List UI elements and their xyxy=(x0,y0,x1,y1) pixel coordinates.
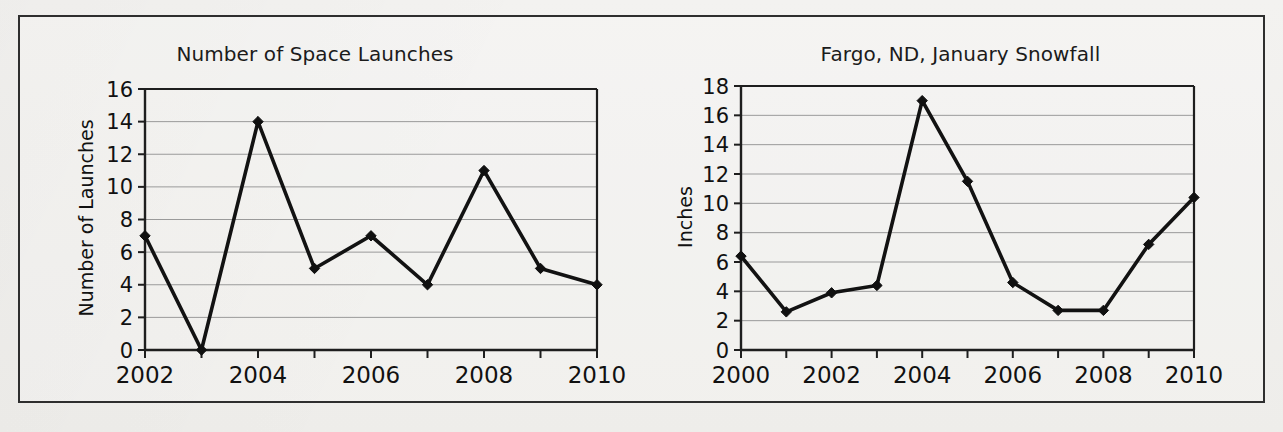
figure-page: Number of Space Launches Number of Launc… xyxy=(0,0,1283,432)
x-tick-label: 2004 xyxy=(893,362,952,388)
data-point-marker xyxy=(872,280,882,290)
y-tick-label: 0 xyxy=(716,339,729,363)
data-point-marker xyxy=(826,288,836,298)
x-tick-label: 2006 xyxy=(984,362,1043,388)
y-tick-label: 6 xyxy=(716,251,729,275)
plot-area-fargo-snowfall: 024681012141618200020022004200620082010 xyxy=(650,0,1283,432)
y-tick-label: 8 xyxy=(716,221,729,245)
y-tick-label: 6 xyxy=(120,241,133,265)
plot-area-space-launches: 024681012141620022004200620082010 xyxy=(0,0,650,432)
x-tick-label: 2000 xyxy=(712,362,771,388)
x-tick-label: 2004 xyxy=(229,362,288,388)
y-tick-label: 16 xyxy=(702,104,729,128)
y-tick-label: 18 xyxy=(702,75,729,99)
x-tick-label: 2002 xyxy=(116,362,175,388)
x-tick-label: 2010 xyxy=(1165,362,1224,388)
x-tick-label: 2006 xyxy=(342,362,401,388)
x-tick-label: 2008 xyxy=(1074,362,1133,388)
y-tick-label: 8 xyxy=(120,208,133,232)
y-tick-label: 10 xyxy=(106,175,133,199)
y-tick-label: 14 xyxy=(702,133,729,157)
y-tick-label: 12 xyxy=(106,143,133,167)
x-tick-label: 2010 xyxy=(568,362,627,388)
y-tick-label: 4 xyxy=(120,273,133,297)
y-tick-label: 12 xyxy=(702,163,729,187)
x-tick-label: 2002 xyxy=(802,362,861,388)
data-point-marker xyxy=(253,116,263,126)
chart-fargo-snowfall: Fargo, ND, January Snowfall Inches 02468… xyxy=(650,0,1283,432)
y-tick-label: 4 xyxy=(716,280,729,304)
chart-space-launches: Number of Space Launches Number of Launc… xyxy=(0,0,650,432)
y-tick-label: 10 xyxy=(702,192,729,216)
data-point-marker xyxy=(592,280,602,290)
y-tick-label: 16 xyxy=(106,78,133,102)
y-tick-label: 14 xyxy=(106,110,133,134)
x-tick-label: 2008 xyxy=(455,362,514,388)
y-tick-label: 2 xyxy=(120,306,133,330)
y-tick-label: 0 xyxy=(120,339,133,363)
series-line xyxy=(741,101,1194,312)
y-tick-label: 2 xyxy=(716,309,729,333)
